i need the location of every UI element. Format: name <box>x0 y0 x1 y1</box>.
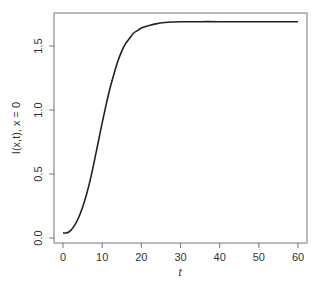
x-tick-label: 40 <box>214 251 226 263</box>
y-axis: 0.00.51.01.5 <box>32 38 54 245</box>
x-tick-label: 10 <box>96 251 108 263</box>
x-tick-label: 0 <box>60 251 66 263</box>
y-axis-label: I(x,t), x = 0 <box>10 102 22 154</box>
x-tick-label: 20 <box>135 251 147 263</box>
x-axis-label: t <box>178 266 182 278</box>
x-tick-label: 30 <box>174 251 186 263</box>
y-tick-label: 1.5 <box>32 38 44 53</box>
x-tick-label: 60 <box>292 251 304 263</box>
x-tick-label: 50 <box>253 251 265 263</box>
x-axis: 0102030405060 <box>60 243 304 263</box>
chart: 0102030405060 0.00.51.01.5 t I(x,t), x =… <box>0 0 324 287</box>
y-tick-label: 0.0 <box>32 230 44 245</box>
y-tick-label: 1.0 <box>32 102 44 117</box>
plot-frame <box>54 13 307 243</box>
y-tick-label: 0.5 <box>32 166 44 181</box>
series-line <box>63 22 298 233</box>
series-layer <box>63 22 298 233</box>
